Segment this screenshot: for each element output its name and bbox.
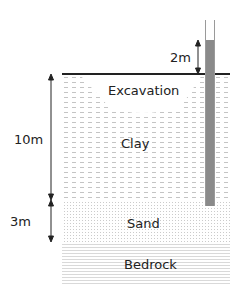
head-dimension-label: 2m bbox=[170, 50, 191, 65]
sand-dimension-arrow bbox=[49, 200, 54, 242]
standpipe bbox=[206, 20, 215, 206]
sand-thickness-label: 3m bbox=[10, 214, 31, 229]
clay-label: Clay bbox=[121, 136, 150, 151]
sand-label: Sand bbox=[127, 216, 160, 231]
clay-thickness-label: 10m bbox=[14, 132, 43, 147]
excavation-label: Excavation bbox=[108, 83, 179, 98]
clay-dimension-arrow bbox=[49, 74, 54, 200]
head-dimension-arrow bbox=[196, 40, 201, 74]
soil-profile-diagram: 2m 10m 3m Excavation Clay Sand Bedrock bbox=[0, 0, 240, 297]
bedrock-label: Bedrock bbox=[124, 257, 177, 272]
